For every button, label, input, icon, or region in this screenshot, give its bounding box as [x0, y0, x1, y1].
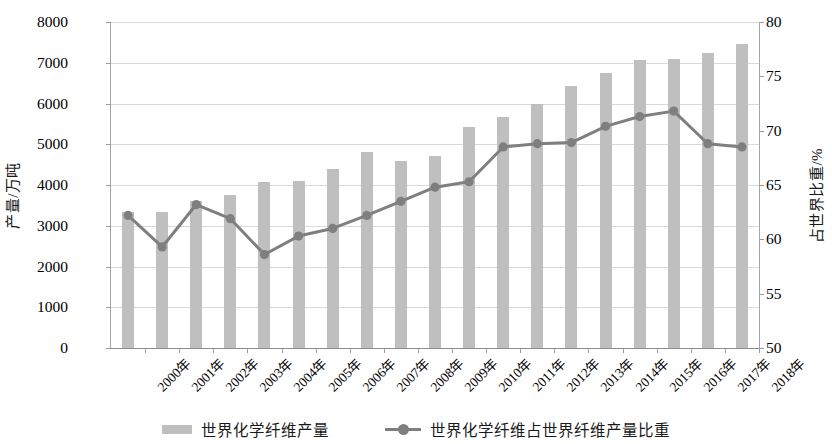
line-marker	[465, 177, 474, 186]
y-tick-label-right: 70	[766, 123, 782, 139]
line-marker	[396, 197, 405, 206]
legend-label-share: 世界化学纤维占世界纤维产量比重	[430, 418, 670, 440]
line-marker	[362, 211, 371, 220]
line-marker	[328, 224, 337, 233]
y-tick-label-right: 50	[766, 340, 782, 356]
x-tick-label: 2005年	[322, 353, 364, 395]
line-marker	[499, 142, 508, 151]
y-tick-label-right: 75	[766, 68, 782, 84]
x-tick-label: 2014年	[629, 353, 671, 395]
y-tick-label-left: 6000	[37, 96, 68, 112]
y-tick-label-right: 65	[766, 177, 782, 193]
line-marker	[294, 231, 303, 240]
line-marker	[158, 242, 167, 251]
y-tick-label-left: 4000	[37, 177, 68, 193]
line-marker	[123, 211, 132, 220]
y-tick-label-right: 60	[766, 231, 782, 247]
y-tick-label-left: 2000	[37, 259, 68, 275]
y-tick-label-left: 1000	[37, 299, 68, 315]
x-tick-label: 2007年	[390, 353, 432, 395]
legend-item-share[interactable]: 世界化学纤维占世界纤维产量比重	[385, 418, 670, 440]
y-tick-label-left: 5000	[37, 136, 68, 152]
line-marker	[601, 122, 610, 131]
legend-item-production[interactable]: 世界化学纤维产量	[162, 418, 329, 440]
y-tick-label-left: 3000	[37, 218, 68, 234]
x-tick-label: 2013年	[595, 353, 637, 395]
y-axis-left-ticks: 010002000300040005000600070008000	[20, 0, 72, 444]
tickmark-right	[759, 294, 764, 295]
y-axis-left-title: 产量/万吨	[1, 151, 22, 241]
x-tick-label: 2004年	[288, 353, 330, 395]
x-tick-label: 2003年	[254, 353, 296, 395]
x-tick-label: 2015年	[663, 353, 705, 395]
tickmark-right	[759, 76, 764, 77]
y-tick-label-left: 8000	[37, 14, 68, 30]
line-marker	[669, 107, 678, 116]
x-tick-label: 2010年	[493, 353, 535, 395]
line-marker	[567, 138, 576, 147]
tickmark-right	[759, 131, 764, 132]
legend-label-production: 世界化学纤维产量	[201, 418, 329, 440]
x-tick-label: 2009年	[459, 353, 501, 395]
x-tick-label: 2002年	[220, 353, 262, 395]
line-marker-swatch-icon	[385, 423, 421, 435]
line-marker	[430, 183, 439, 192]
x-tick-label: 2001年	[186, 353, 228, 395]
line-marker	[533, 139, 542, 148]
bar-swatch-icon	[162, 425, 192, 434]
x-tick-label: 2006年	[356, 353, 398, 395]
line-marker	[226, 214, 235, 223]
x-tick-label: 2008年	[425, 353, 467, 395]
y-tick-label-left: 7000	[37, 55, 68, 71]
y-tick-label-left: 0	[60, 340, 68, 356]
tickmark-right	[759, 185, 764, 186]
chart-legend: 世界化学纤维产量 世界化学纤维占世界纤维产量比重	[0, 414, 832, 444]
line-marker	[635, 112, 644, 121]
x-tick-label: 2012年	[561, 353, 603, 395]
line-marker	[260, 250, 269, 259]
y-tick-label-right: 55	[766, 286, 782, 302]
tickmark-right	[759, 239, 764, 240]
x-tick-label: 2000年	[152, 353, 194, 395]
chart-container: 产量/万吨 占世界比重/% 01000200030004000500060007…	[0, 0, 832, 444]
tickmark-right	[759, 22, 764, 23]
line-marker	[737, 142, 746, 151]
x-tick-label: 2011年	[527, 353, 569, 395]
plot-area	[110, 22, 760, 349]
line-marker	[192, 200, 201, 209]
x-tick-label: 2016年	[697, 353, 739, 395]
y-tick-label-right: 80	[766, 14, 782, 30]
x-axis-labels: 2000年2001年2002年2003年2004年2005年2006年2007年…	[110, 349, 758, 411]
line-series	[111, 22, 759, 348]
line-marker	[703, 139, 712, 148]
